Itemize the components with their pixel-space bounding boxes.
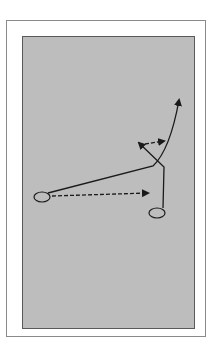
route-right-solid [139,143,164,208]
player-left-icon [34,192,50,202]
player-right-icon [149,208,165,218]
play-diagram [0,0,213,344]
pass-dashed-top [145,141,164,144]
route-left-solid-curve [48,100,179,193]
pass-dashed-bottom [52,193,148,196]
